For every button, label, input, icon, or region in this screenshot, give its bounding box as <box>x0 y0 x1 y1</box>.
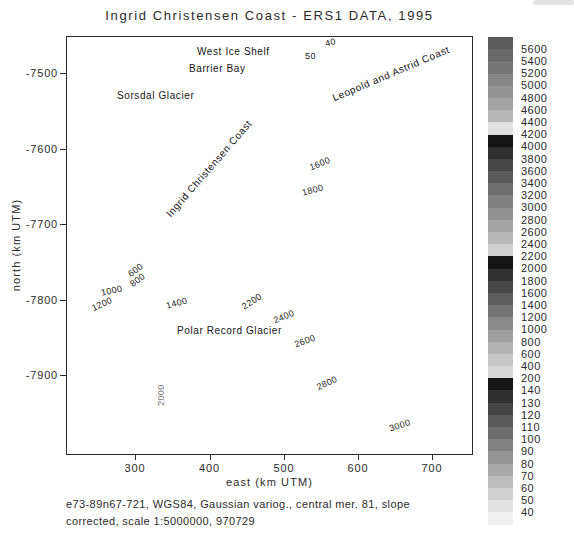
colorbar-cell <box>488 37 513 49</box>
colorbar-tick-label: 110 <box>521 422 540 433</box>
annotation-west-ice-shelf: West Ice Shelf <box>197 46 270 57</box>
y-tick-mark <box>60 375 66 376</box>
colorbar-tick-label: 90 <box>521 446 534 457</box>
x-tick-mark <box>210 455 211 460</box>
colorbar-cell <box>488 281 513 293</box>
x-tick-label: 400 <box>199 462 220 474</box>
chart-title: Ingrid Christensen Coast - ERS1 DATA, 19… <box>66 8 473 23</box>
y-axis-title: north (km UTM) <box>10 199 22 291</box>
colorbar-cell <box>488 74 513 86</box>
scan-artifact <box>533 0 574 5</box>
colorbar-tick-label: 5000 <box>521 80 547 91</box>
colorbar-cell <box>488 122 513 134</box>
colorbar-cell <box>488 330 513 342</box>
colorbar-tick-label: 3800 <box>521 154 547 165</box>
colorbar-tick-label: 2400 <box>521 239 547 250</box>
colorbar-tick-label: 40 <box>521 507 534 518</box>
colorbar-cell <box>488 378 513 390</box>
colorbar-cell <box>488 110 513 122</box>
y-tick-mark <box>60 149 66 150</box>
colorbar-cell <box>488 98 513 110</box>
colorbar-tick-label: 80 <box>521 459 534 470</box>
colorbar-cell <box>488 220 513 232</box>
colorbar-cell <box>488 415 513 427</box>
colorbar-tick-label: 800 <box>521 337 541 348</box>
colorbar-tick-label: 2200 <box>521 251 547 262</box>
x-tick-label: 300 <box>125 462 146 474</box>
colorbar-tick-label: 5400 <box>521 56 547 67</box>
colorbar-tick-label: 3000 <box>521 202 547 213</box>
annotation-sorsdal-glacier: Sorsdal Glacier <box>117 90 194 101</box>
colorbar-cell <box>488 159 513 171</box>
colorbar-tick-label: 1600 <box>521 288 547 299</box>
x-tick-mark <box>135 455 136 460</box>
colorbar-tick-label: 2800 <box>521 215 547 226</box>
x-tick-mark <box>432 455 433 460</box>
annotation-barrier-bay: Barrier Bay <box>189 63 246 74</box>
colorbar-tick-label: 3200 <box>521 190 547 201</box>
figure-caption: e73-89n67-721, WGS84, Gaussian variog., … <box>66 496 506 530</box>
annotation-polar-record-glacier: Polar Record Glacier <box>177 325 282 336</box>
colorbar-tick-label: 1800 <box>521 276 547 287</box>
colorbar-tick-label: 120 <box>521 410 541 421</box>
y-tick-label: -7600 <box>12 143 58 155</box>
colorbar-cell <box>488 208 513 220</box>
colorbar-cell <box>488 342 513 354</box>
colorbar-cell <box>488 317 513 329</box>
colorbar-tick-label: 4000 <box>521 141 547 152</box>
colorbar-tick-label: 3600 <box>521 166 547 177</box>
colorbar-tick-label: 1400 <box>521 300 547 311</box>
x-tick-label: 700 <box>422 462 443 474</box>
x-tick-mark <box>358 455 359 460</box>
colorbar-cell <box>488 183 513 195</box>
y-tick-mark <box>60 224 66 225</box>
colorbar-tick-label: 100 <box>521 434 541 445</box>
colorbar-cell <box>488 451 513 463</box>
x-tick-label: 600 <box>348 462 369 474</box>
colorbar-cell <box>488 147 513 159</box>
colorbar-cell <box>488 366 513 378</box>
contour-value-label: 2000 <box>156 384 166 406</box>
y-tick-mark <box>60 300 66 301</box>
colorbar-tick-label: 4600 <box>521 105 547 116</box>
colorbar-tick-label: 4800 <box>521 93 547 104</box>
caption-line-2: corrected, scale 1:5000000, 970729 <box>66 513 506 530</box>
figure-root: Ingrid Christensen Coast - ERS1 DATA, 19… <box>0 0 574 540</box>
colorbar <box>488 37 513 525</box>
caption-line-1: e73-89n67-721, WGS84, Gaussian variog., … <box>66 496 506 513</box>
y-tick-label: -7500 <box>12 67 58 79</box>
colorbar-tick-label: 5600 <box>521 44 547 55</box>
colorbar-tick-label: 3400 <box>521 178 547 189</box>
colorbar-tick-label: 1200 <box>521 312 547 323</box>
colorbar-tick-label: 200 <box>521 373 541 384</box>
colorbar-tick-label: 140 <box>521 385 541 396</box>
colorbar-cell <box>488 86 513 98</box>
colorbar-cell <box>488 244 513 256</box>
colorbar-tick-label: 60 <box>521 483 534 494</box>
colorbar-tick-label: 2000 <box>521 263 547 274</box>
colorbar-cell <box>488 256 513 268</box>
colorbar-tick-label: 70 <box>521 471 534 482</box>
colorbar-cell <box>488 232 513 244</box>
colorbar-cell <box>488 403 513 415</box>
colorbar-cell <box>488 390 513 402</box>
colorbar-cell <box>488 427 513 439</box>
y-tick-label: -7900 <box>12 369 58 381</box>
y-tick-label: -7800 <box>12 294 58 306</box>
colorbar-cell <box>488 49 513 61</box>
colorbar-cell <box>488 293 513 305</box>
x-tick-label: 500 <box>274 462 295 474</box>
colorbar-cell <box>488 354 513 366</box>
colorbar-tick-label: 4400 <box>521 117 547 128</box>
colorbar-tick-label: 600 <box>521 349 541 360</box>
colorbar-cell <box>488 269 513 281</box>
colorbar-cell <box>488 61 513 73</box>
colorbar-cell <box>488 195 513 207</box>
colorbar-cell <box>488 171 513 183</box>
colorbar-tick-label: 50 <box>521 495 534 506</box>
colorbar-tick-label: 4200 <box>521 129 547 140</box>
colorbar-tick-label: 400 <box>521 361 541 372</box>
colorbar-cell <box>488 305 513 317</box>
contour-value-label: 50 <box>305 51 316 61</box>
x-tick-mark <box>284 455 285 460</box>
